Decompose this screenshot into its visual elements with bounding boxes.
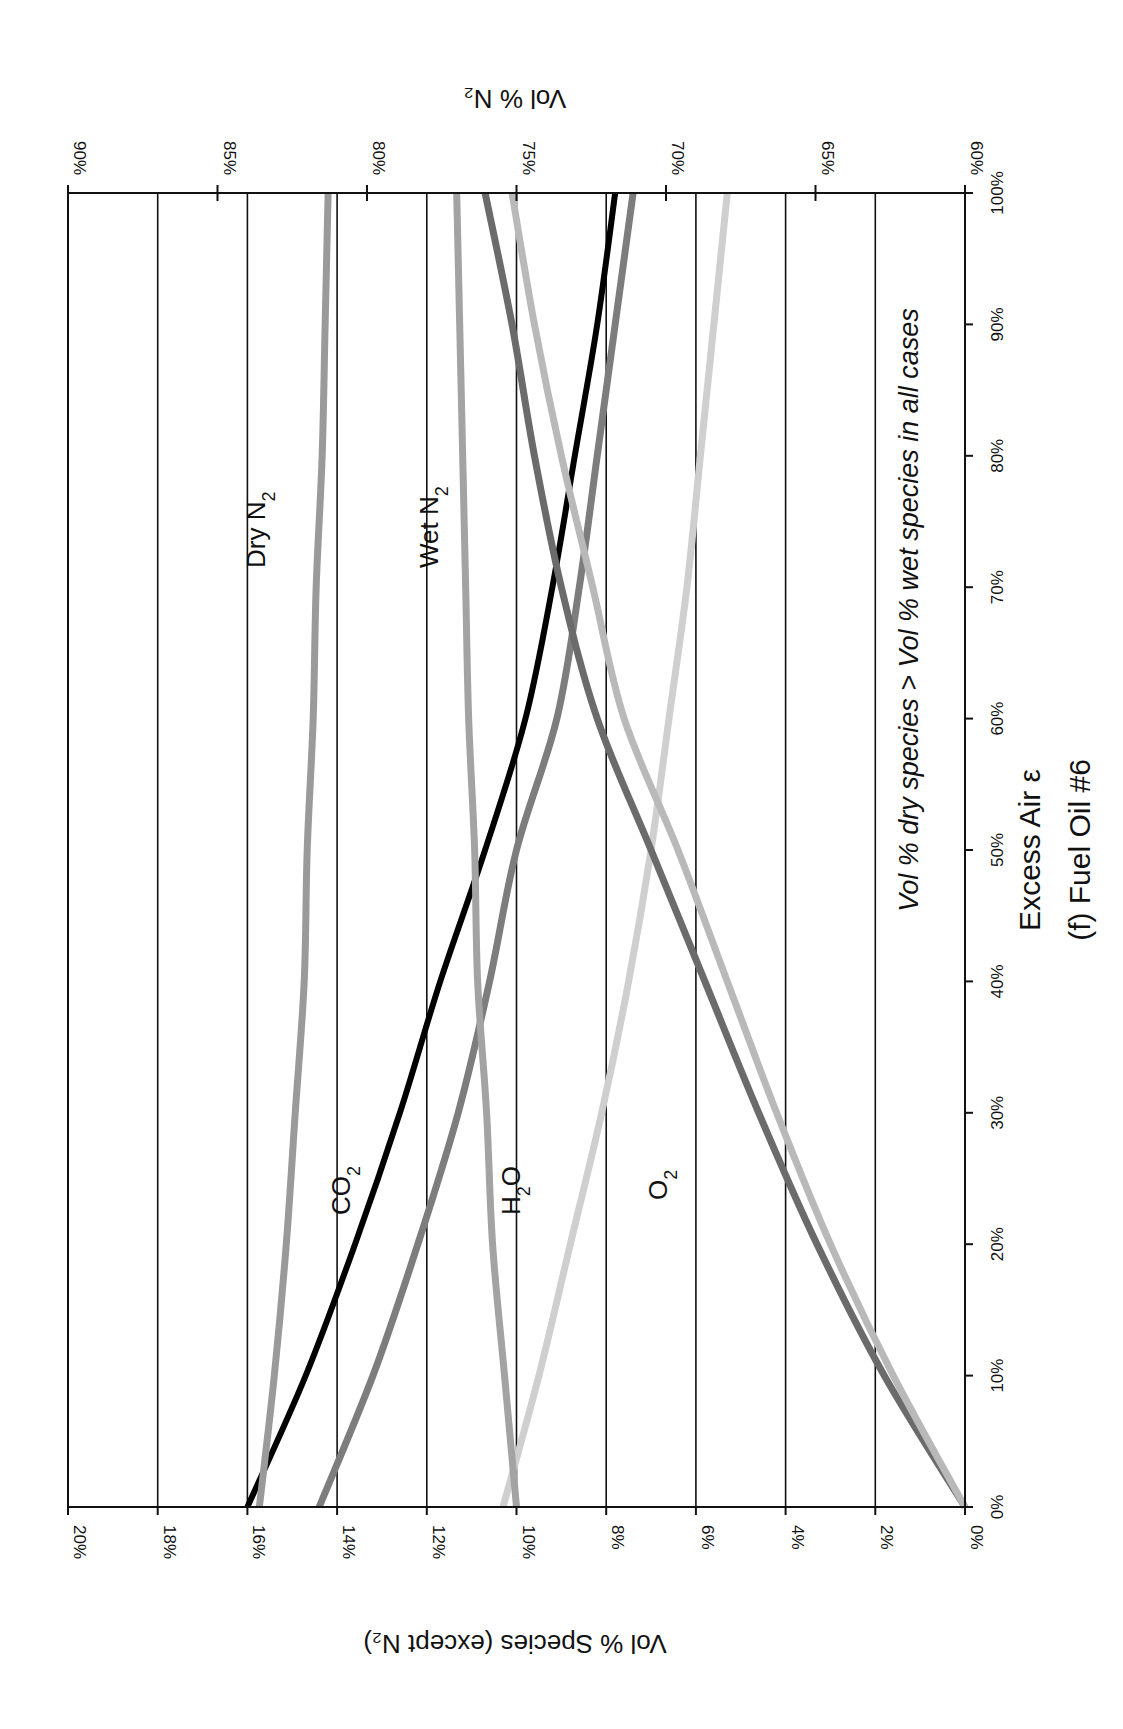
y2-axis-ticks: 60%65%70%75%80%85%90% <box>68 141 986 201</box>
x-tick-label: 10% <box>988 1359 1007 1393</box>
y-tick-label: 6% <box>698 1525 717 1550</box>
label-co2: CO2 <box>326 1166 364 1215</box>
y2-axis-title: Vol % N₂ <box>464 84 567 114</box>
y-tick-label: 20% <box>70 1525 89 1559</box>
x-tick-label: 20% <box>988 1227 1007 1261</box>
label-dry-n2: Dry N2 <box>241 492 279 568</box>
x-tick-label: 30% <box>988 1096 1007 1130</box>
y-tick-label: 0% <box>967 1525 986 1550</box>
x-tick-label: 80% <box>988 439 1007 473</box>
chart-title: (f) Fuel Oil #6 <box>1063 759 1096 941</box>
y-tick-label: 12% <box>429 1525 448 1559</box>
y-axis-title: Vol % Species (except N₂) <box>363 1629 666 1659</box>
y-tick-label: 2% <box>877 1525 896 1550</box>
y-tick-label: 10% <box>519 1525 538 1559</box>
y-tick-label: 16% <box>249 1525 268 1559</box>
x-tick-label: 100% <box>988 171 1007 214</box>
y-tick-label: 14% <box>339 1525 358 1559</box>
chart: 0%2%4%6%8%10%12%14%16%18%20% 60%65%70%75… <box>0 0 1123 1729</box>
y2-tick-label: 80% <box>369 141 388 175</box>
x-axis-title: Excess Air ε <box>1013 769 1046 931</box>
x-tick-label: 40% <box>988 964 1007 998</box>
y-tick-label: 8% <box>608 1525 627 1550</box>
x-tick-label: 70% <box>988 570 1007 604</box>
label-wet-n2: Wet N2 <box>414 486 452 568</box>
series-h2o <box>503 193 727 1507</box>
series-co2-dry <box>247 193 615 1507</box>
x-axis-ticks: 0%10%20%30%40%50%60%70%80%90%100% <box>965 171 1007 1519</box>
y2-tick-label: 75% <box>519 141 538 175</box>
series-dry-n2 <box>259 193 328 1507</box>
y-tick-label: 4% <box>788 1525 807 1550</box>
y-tick-label: 18% <box>160 1525 179 1559</box>
y2-tick-label: 90% <box>70 141 89 175</box>
y2-tick-label: 65% <box>818 141 837 175</box>
x-tick-label: 60% <box>988 702 1007 736</box>
x-tick-label: 0% <box>988 1495 1007 1520</box>
x-tick-label: 90% <box>988 307 1007 341</box>
label-h2o: H2O <box>496 1166 534 1215</box>
x-tick-label: 50% <box>988 833 1007 867</box>
annotation-note: Vol % dry species > Vol % wet species in… <box>894 308 924 912</box>
label-o2: O2 <box>643 1170 681 1200</box>
y2-tick-label: 70% <box>668 141 687 175</box>
y2-tick-label: 60% <box>967 141 986 175</box>
y-axis-ticks: 0%2%4%6%8%10%12%14%16%18%20% <box>68 1507 986 1559</box>
y2-tick-label: 85% <box>220 141 239 175</box>
